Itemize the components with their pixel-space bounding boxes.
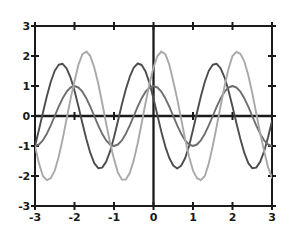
y-tick-label-3: 3: [4, 20, 30, 33]
y-tick-label--2: -2: [4, 170, 30, 183]
y-tick-label--3: -3: [4, 200, 30, 213]
y-tick-label-0: 0: [4, 110, 30, 123]
x-tick-label-2: 2: [229, 211, 236, 224]
x-tick-label--1: -1: [108, 211, 120, 224]
x-tick-label-0: 0: [150, 211, 157, 224]
x-tick-label--2: -2: [69, 211, 81, 224]
x-tick-label--3: -3: [29, 211, 41, 224]
x-tick-label-3: 3: [268, 211, 275, 224]
y-tick-label--1: -1: [4, 140, 30, 153]
chart-figure: -3-2-10123 -3-2-10123: [0, 0, 294, 236]
plot-canvas: [0, 0, 294, 236]
y-tick-label-2: 2: [4, 50, 30, 63]
y-tick-label-1: 1: [4, 80, 30, 93]
x-tick-label-1: 1: [189, 211, 196, 224]
